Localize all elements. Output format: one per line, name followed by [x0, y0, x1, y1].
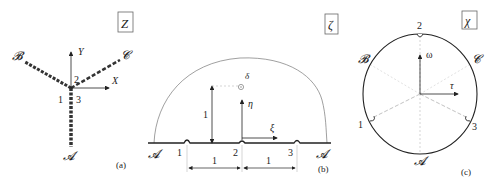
point-label-3: 3 — [288, 147, 293, 158]
point-2-bump — [417, 34, 423, 37]
eta-axis-label: η — [248, 98, 253, 109]
omega-axis-label: ω — [426, 49, 433, 60]
endpoint-left: 𝓐 — [148, 147, 164, 161]
caption: (b) — [318, 164, 329, 174]
panel-b: ζ 𝓐 𝓐 1 2 3 1 δ η ξ 1 1 (b) — [148, 14, 338, 174]
plane-label: χ — [464, 14, 471, 28]
arc-label-b: 𝓑 — [358, 52, 371, 66]
plane-label: ζ — [328, 18, 334, 32]
panel-a: Z Y X 𝓐 𝓑 𝓒 1 2 3 (a) — [12, 12, 133, 170]
tau-axis-label: τ — [450, 80, 454, 91]
pole-label: δ — [245, 71, 250, 81]
point-1-bump — [370, 116, 375, 121]
point-label-2: 2 — [233, 147, 238, 158]
branch-c-label: 𝓒 — [121, 48, 133, 62]
point-label-3: 3 — [472, 121, 477, 132]
branch-b-label: 𝓑 — [12, 49, 25, 63]
xi-axis-label: ξ — [270, 122, 275, 134]
conformal-map-figure: Z Y X 𝓐 𝓑 𝓒 1 2 3 (a) ζ 𝓐 𝓐 1 2 3 1 — [0, 0, 494, 184]
spacing-label-1: 1 — [212, 155, 217, 166]
semicircle-boundary — [154, 58, 327, 143]
point-label-1: 1 — [177, 147, 182, 158]
vertex-label-3: 3 — [76, 94, 81, 105]
caption: (c) — [461, 167, 471, 177]
caption: (a) — [116, 160, 126, 170]
x-axis-label: X — [111, 75, 119, 86]
vertex-label-2: 2 — [74, 74, 79, 85]
point-label-2: 2 — [417, 20, 422, 31]
branch-a-label: 𝓐 — [63, 149, 79, 163]
point-3-bump — [466, 116, 471, 121]
y-axis-label: Y — [78, 46, 85, 57]
panel-c: χ ω τ 𝓐 𝓑 𝓒 1 2 3 (c) — [358, 11, 484, 177]
height-label: 1 — [203, 109, 208, 120]
plane-label: Z — [121, 16, 129, 31]
branch-b-slit — [25, 62, 71, 88]
spacing-label-2: 1 — [266, 155, 271, 166]
endpoint-right: 𝓐 — [316, 147, 332, 161]
point-label-1: 1 — [358, 119, 363, 130]
arc-label-c: 𝓒 — [472, 52, 484, 66]
vertex-label-1: 1 — [58, 94, 63, 105]
arc-label-a: 𝓐 — [414, 154, 430, 168]
real-axis — [148, 140, 331, 143]
